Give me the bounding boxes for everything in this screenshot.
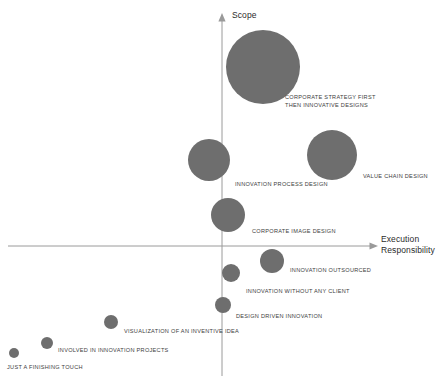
y-axis-title: Scope	[232, 10, 257, 21]
bubble-label: INVOLVED IN INNOVATION PROJECTS	[58, 347, 169, 355]
bubble-point[interactable]	[188, 139, 230, 181]
chart-canvas	[0, 0, 442, 376]
bubble-point[interactable]	[104, 315, 118, 329]
bubble-label: JUST A FINISHING TOUCH	[7, 364, 83, 372]
bubble-point[interactable]	[307, 130, 357, 180]
bubble-point[interactable]	[215, 297, 231, 313]
bubble-point[interactable]	[226, 30, 300, 104]
bubble-label: INNOVATION PROCESS DESIGN	[235, 181, 328, 189]
bubble-point[interactable]	[41, 337, 53, 349]
bubble-label: INNOVATION OUTSOURCED	[290, 267, 371, 275]
axes-group	[8, 13, 378, 376]
bubble-label: VALUE CHAIN DESIGN	[363, 173, 428, 181]
bubble-point[interactable]	[9, 348, 19, 358]
x-axis-arrow-icon	[370, 242, 379, 249]
bubble-label: CORPORATE STRATEGY FIRST THEN INNOVATIVE…	[285, 94, 376, 109]
y-axis-arrow-icon	[218, 13, 225, 22]
bubble-label: CORPORATE IMAGE DESIGN	[252, 228, 336, 236]
bubble-chart: Scope Execution Responsibility CORPORATE…	[0, 0, 442, 376]
bubble-label: VISUALIZATION OF AN INVENTIVE IDEA	[124, 328, 239, 336]
x-axis-title: Execution Responsibility	[381, 234, 435, 255]
bubble-point[interactable]	[211, 198, 245, 232]
bubbles-group	[9, 30, 357, 358]
bubble-point[interactable]	[260, 249, 284, 273]
bubble-label: DESIGN DRIVEN INNOVATION	[236, 313, 322, 321]
bubble-point[interactable]	[222, 264, 240, 282]
bubble-label: INNOVATION WITHOUT ANY CLIENT	[246, 288, 350, 296]
